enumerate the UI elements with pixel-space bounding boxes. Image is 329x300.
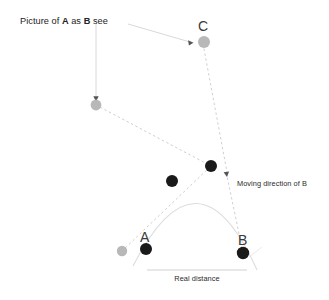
arrowhead-to-c-icon <box>188 40 193 45</box>
marker-c <box>198 36 210 48</box>
caption-bold-a: A <box>62 16 69 26</box>
point-label-c: C <box>198 18 208 34</box>
marker-picture-a <box>91 100 102 111</box>
marker-ghost-a <box>117 246 127 256</box>
marker-b <box>237 247 249 259</box>
point-label-a: A <box>140 229 149 245</box>
arrowhead-moving-direction-icon <box>224 172 230 177</box>
caption-suffix: see <box>90 16 108 26</box>
caption-pointer-c-path <box>128 24 190 42</box>
caption-mid: as <box>69 16 84 26</box>
caption-prefix: Picture of <box>20 16 62 26</box>
moving-direction-path <box>204 49 227 172</box>
moving-direction-label: Moving direction of B <box>237 180 307 189</box>
diagram-svg <box>0 0 329 300</box>
diagram-canvas: Picture of A as B see Moving direction o… <box>0 0 329 300</box>
marker-arc-right <box>205 160 217 172</box>
b-trail-path <box>249 247 262 257</box>
point-label-b: B <box>238 232 247 248</box>
sight-line-upper-path <box>96 105 211 166</box>
real-distance-label: Real distance <box>147 275 247 284</box>
caption-picture-of-a-as-b-see: Picture of A as B see <box>20 16 108 27</box>
marker-arc-left <box>166 175 178 187</box>
